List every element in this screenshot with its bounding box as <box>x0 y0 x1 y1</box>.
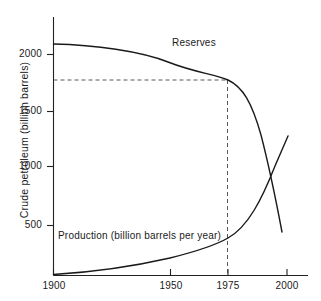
y-tick-label-500: 500 <box>8 219 42 230</box>
x-tick-label-2000: 2000 <box>267 280 307 291</box>
y-tick-label-2000: 2000 <box>8 48 42 59</box>
y-tick-marks <box>47 55 54 226</box>
production-series-label: Production (billion barrels per year) <box>58 230 221 241</box>
chart-canvas <box>0 0 321 301</box>
y-axis-title: Crude petroleum (billion barrels) <box>18 55 30 225</box>
reserves-series-label: Reserves <box>172 37 216 48</box>
reserves-curve <box>54 44 283 232</box>
x-tick-label-1950: 1950 <box>151 280 191 291</box>
x-tick-label-1900: 1900 <box>34 280 74 291</box>
y-tick-label-1000: 1000 <box>8 160 42 171</box>
x-tick-label-1975: 1975 <box>208 280 248 291</box>
y-tick-label-1500: 1500 <box>8 105 42 116</box>
production-curve <box>54 136 289 275</box>
petroleum-reserves-production-chart: Crude petroleum (billion barrels) 2000 1… <box>0 0 321 301</box>
